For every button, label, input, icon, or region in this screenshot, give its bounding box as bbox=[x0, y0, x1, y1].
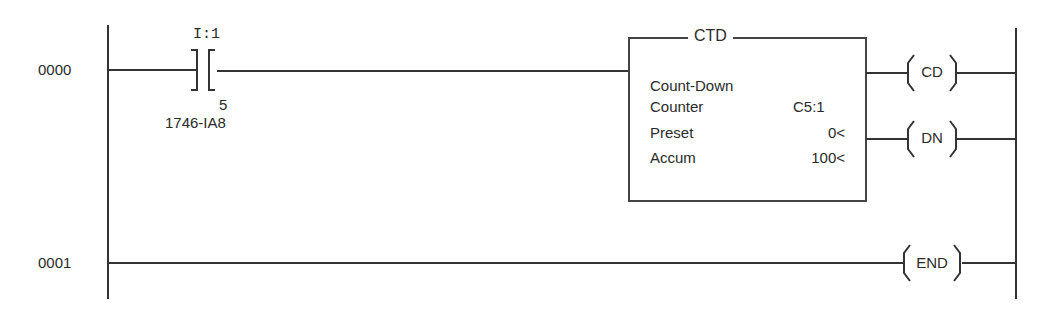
output-coil-cd[interactable]: CD bbox=[904, 53, 960, 93]
dn-wire-left bbox=[866, 138, 908, 140]
coil-label: END bbox=[900, 254, 964, 271]
ctd-instruction-block[interactable]: CTD Count-Down Counter C5:1 Preset 0< Ac… bbox=[628, 37, 867, 202]
contact-address: I:1 bbox=[193, 26, 220, 43]
end-wire-right bbox=[962, 262, 1016, 264]
contact-module: 1746-IA8 bbox=[165, 114, 226, 131]
output-coil-end[interactable]: END bbox=[900, 243, 964, 283]
accum-label: Accum bbox=[650, 149, 696, 166]
cd-wire-left bbox=[866, 72, 908, 74]
rung-wire-left bbox=[108, 69, 196, 71]
preset-label: Preset bbox=[650, 124, 693, 141]
accum-value: 100< bbox=[811, 149, 845, 166]
preset-value: 0< bbox=[828, 124, 845, 141]
instruction-type: CTD bbox=[688, 27, 733, 45]
contact-bit: 5 bbox=[219, 96, 227, 113]
rung-wire bbox=[108, 262, 904, 264]
coil-label: CD bbox=[904, 63, 960, 80]
rung-number: 0001 bbox=[38, 254, 71, 271]
output-coil-dn[interactable]: DN bbox=[904, 119, 960, 159]
right-power-rail bbox=[1015, 28, 1017, 299]
contact-icon bbox=[188, 48, 218, 92]
coil-label: DN bbox=[904, 129, 960, 146]
left-power-rail bbox=[107, 25, 109, 299]
cd-wire-right bbox=[956, 72, 1016, 74]
rung-wire-middle bbox=[217, 70, 629, 72]
rung-number: 0000 bbox=[38, 61, 71, 78]
counter-value: C5:1 bbox=[793, 98, 825, 115]
instruction-description: Count-Down bbox=[650, 77, 733, 94]
counter-label: Counter bbox=[650, 98, 703, 115]
dn-wire-right bbox=[956, 138, 1016, 140]
